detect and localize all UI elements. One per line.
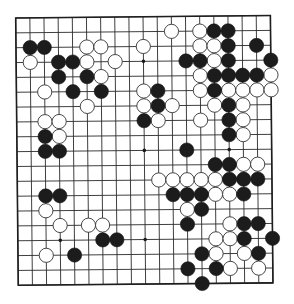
white-stone[interactable]: [52, 114, 66, 128]
white-stone[interactable]: [38, 85, 52, 99]
white-stone[interactable]: [251, 261, 265, 275]
black-stone[interactable]: [52, 70, 66, 84]
white-stone[interactable]: [39, 204, 53, 218]
black-stone[interactable]: [264, 53, 278, 67]
black-stone[interactable]: [23, 40, 37, 54]
white-stone[interactable]: [209, 232, 223, 246]
white-stone[interactable]: [180, 202, 194, 216]
white-stone[interactable]: [166, 173, 180, 187]
black-stone[interactable]: [181, 262, 195, 276]
white-stone[interactable]: [236, 127, 250, 141]
black-stone[interactable]: [265, 231, 279, 245]
black-stone[interactable]: [179, 54, 193, 68]
black-stone[interactable]: [222, 98, 236, 112]
white-stone[interactable]: [193, 83, 207, 97]
black-stone[interactable]: [80, 70, 94, 84]
white-stone[interactable]: [209, 247, 223, 261]
white-stone[interactable]: [250, 157, 264, 171]
black-stone[interactable]: [221, 68, 235, 82]
black-stone[interactable]: [151, 99, 165, 113]
black-stone[interactable]: [221, 24, 235, 38]
black-stone[interactable]: [38, 129, 52, 143]
black-stone[interactable]: [137, 114, 151, 128]
white-stone[interactable]: [151, 113, 165, 127]
black-stone[interactable]: [209, 261, 223, 275]
black-stone[interactable]: [94, 84, 108, 98]
white-stone[interactable]: [136, 39, 150, 53]
white-stone[interactable]: [194, 172, 208, 186]
black-stone[interactable]: [195, 276, 209, 290]
white-stone[interactable]: [38, 115, 52, 129]
white-stone[interactable]: [236, 157, 250, 171]
white-stone[interactable]: [193, 39, 207, 53]
white-stone[interactable]: [236, 113, 250, 127]
black-stone[interactable]: [195, 247, 209, 261]
black-stone[interactable]: [222, 128, 236, 142]
white-stone[interactable]: [207, 98, 221, 112]
black-stone[interactable]: [166, 188, 180, 202]
white-stone[interactable]: [52, 129, 66, 143]
white-stone[interactable]: [95, 218, 109, 232]
black-stone[interactable]: [67, 248, 81, 262]
black-stone[interactable]: [53, 189, 67, 203]
black-stone[interactable]: [221, 53, 235, 67]
white-stone[interactable]: [222, 187, 236, 201]
white-stone[interactable]: [53, 218, 67, 232]
black-stone[interactable]: [237, 231, 251, 245]
white-stone[interactable]: [180, 173, 194, 187]
black-stone[interactable]: [222, 172, 236, 186]
go-board[interactable]: [0, 0, 294, 304]
black-stone[interactable]: [180, 143, 194, 157]
black-stone[interactable]: [193, 54, 207, 68]
black-stone[interactable]: [236, 172, 250, 186]
black-stone[interactable]: [237, 217, 251, 231]
white-stone[interactable]: [80, 99, 94, 113]
white-stone[interactable]: [152, 173, 166, 187]
white-stone[interactable]: [80, 55, 94, 69]
white-stone[interactable]: [223, 217, 237, 231]
black-stone[interactable]: [207, 24, 221, 38]
black-stone[interactable]: [66, 85, 80, 99]
black-stone[interactable]: [251, 216, 265, 230]
black-stone[interactable]: [39, 189, 53, 203]
black-stone[interactable]: [37, 40, 51, 54]
black-stone[interactable]: [251, 246, 265, 260]
black-stone[interactable]: [110, 233, 124, 247]
white-stone[interactable]: [208, 172, 222, 186]
white-stone[interactable]: [137, 99, 151, 113]
white-stone[interactable]: [223, 261, 237, 275]
white-stone[interactable]: [193, 113, 207, 127]
black-stone[interactable]: [38, 144, 52, 158]
white-stone[interactable]: [236, 83, 250, 97]
white-stone[interactable]: [250, 83, 264, 97]
white-stone[interactable]: [81, 218, 95, 232]
black-stone[interactable]: [222, 113, 236, 127]
black-stone[interactable]: [249, 38, 263, 52]
white-stone[interactable]: [23, 55, 37, 69]
black-stone[interactable]: [251, 172, 265, 186]
white-stone[interactable]: [236, 98, 250, 112]
black-stone[interactable]: [208, 157, 222, 171]
white-stone[interactable]: [207, 39, 221, 53]
white-stone[interactable]: [223, 232, 237, 246]
black-stone[interactable]: [96, 233, 110, 247]
white-stone[interactable]: [193, 24, 207, 38]
white-stone[interactable]: [80, 40, 94, 54]
black-stone[interactable]: [235, 68, 249, 82]
black-stone[interactable]: [237, 187, 251, 201]
black-stone[interactable]: [151, 84, 165, 98]
white-stone[interactable]: [108, 54, 122, 68]
black-stone[interactable]: [194, 187, 208, 201]
white-stone[interactable]: [39, 248, 53, 262]
white-stone[interactable]: [164, 24, 178, 38]
white-stone[interactable]: [221, 83, 235, 97]
black-stone[interactable]: [194, 202, 208, 216]
black-stone[interactable]: [52, 144, 66, 158]
white-stone[interactable]: [137, 84, 151, 98]
white-stone[interactable]: [94, 40, 108, 54]
white-stone[interactable]: [208, 187, 222, 201]
white-stone[interactable]: [165, 98, 179, 112]
white-stone[interactable]: [264, 83, 278, 97]
black-stone[interactable]: [250, 68, 264, 82]
black-stone[interactable]: [180, 217, 194, 231]
